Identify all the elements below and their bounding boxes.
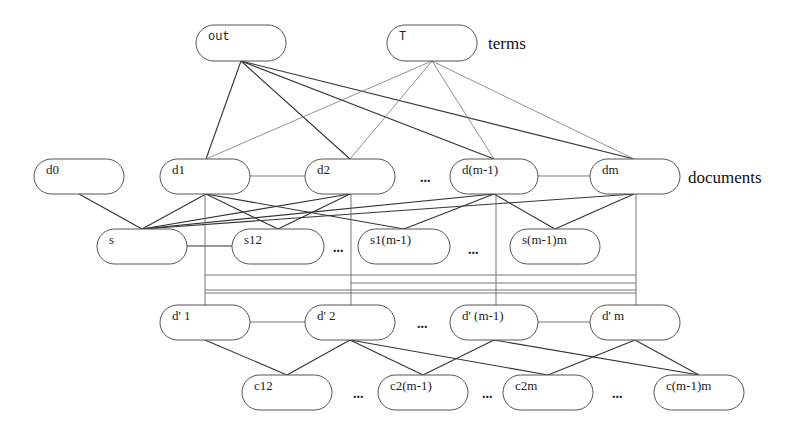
node-label: out: [208, 30, 230, 44]
dprime-c-edge: [350, 340, 423, 375]
node-d2: d2: [305, 159, 395, 194]
term-doc-edge: [241, 61, 634, 159]
node-label: d0: [46, 162, 59, 177]
dprime-c-edge: [548, 340, 635, 375]
doc-sim-edge: [278, 194, 350, 229]
node-d0: d0: [34, 159, 124, 194]
node-t: T: [387, 25, 477, 61]
ellipsis-marker: ...: [612, 386, 623, 401]
graph-diagram: ..................... outTd0d1d2d(m-1)dm…: [0, 0, 803, 438]
dprime-c-edge: [494, 340, 699, 375]
node-label: c2(m-1): [390, 378, 432, 393]
node-label: dm: [602, 162, 619, 177]
node-dm: dm: [590, 159, 680, 194]
node-label: s1(m-1): [370, 232, 411, 247]
ellipsis-marker: ...: [353, 386, 364, 401]
node-label: c(m-1)m: [666, 378, 711, 393]
term-doc-edge: [432, 61, 634, 159]
term-doc-edge: [206, 61, 432, 159]
node-label: d1: [172, 162, 185, 177]
node-label: d' m: [602, 308, 624, 323]
doc-sim-edge: [206, 194, 404, 229]
node-d1: d1: [160, 159, 250, 194]
node-label: d' 2: [317, 308, 336, 323]
node-s: s: [97, 229, 187, 264]
dprime-c-edge: [205, 340, 287, 375]
term-doc-edge: [206, 61, 241, 159]
ellipsis-marker: ...: [417, 316, 428, 331]
dprime-c-edge: [423, 340, 494, 375]
node-out: out: [196, 25, 286, 61]
node-c2m: c2m: [503, 375, 593, 410]
doc-sim-edge: [404, 194, 494, 229]
node-dpm1: d' (m-1): [450, 305, 538, 340]
node-c2m1: c2(m-1): [378, 375, 468, 410]
term-doc-edge: [241, 61, 350, 159]
node-label: c2m: [515, 378, 537, 393]
ellipsis-marker: ...: [482, 386, 493, 401]
ellipsis-marker: ...: [333, 240, 344, 255]
node-cm1m: c(m-1)m: [654, 375, 744, 410]
node-dm1: d(m-1): [450, 159, 538, 194]
node-label: d' 1: [172, 308, 191, 323]
ellipsis-marker: ...: [420, 170, 431, 185]
node-s12: s12: [232, 229, 324, 264]
ellipsis-marker: ...: [468, 242, 479, 257]
node-sm1m: s(m-1)m: [510, 229, 600, 264]
node-c12: c12: [242, 375, 332, 410]
documents-layer-label: documents: [688, 168, 762, 187]
terms-layer-label: terms: [488, 34, 526, 53]
node-label: T: [399, 30, 406, 44]
node-dpm: d' m: [590, 305, 680, 340]
nodes-layer: outTd0d1d2d(m-1)dmss12s1(m-1)s(m-1)md' 1…: [34, 25, 744, 410]
node-label: d2: [317, 162, 330, 177]
doc-sim-edge: [494, 194, 555, 229]
doc-sim-edge: [79, 194, 142, 229]
node-label: s: [109, 232, 114, 247]
node-label: s(m-1)m: [522, 232, 567, 247]
node-s1m1: s1(m-1): [358, 229, 450, 264]
term-doc-edge: [241, 61, 494, 159]
node-label: s12: [244, 232, 262, 247]
node-label: d(m-1): [462, 162, 498, 177]
dprime-c-edge: [350, 340, 548, 375]
node-dp1: d' 1: [160, 305, 250, 340]
dprime-c-edge: [287, 340, 350, 375]
node-label: d' (m-1): [462, 308, 504, 323]
node-dp2: d' 2: [305, 305, 395, 340]
term-doc-edge: [350, 61, 432, 159]
node-label: c12: [254, 378, 273, 393]
